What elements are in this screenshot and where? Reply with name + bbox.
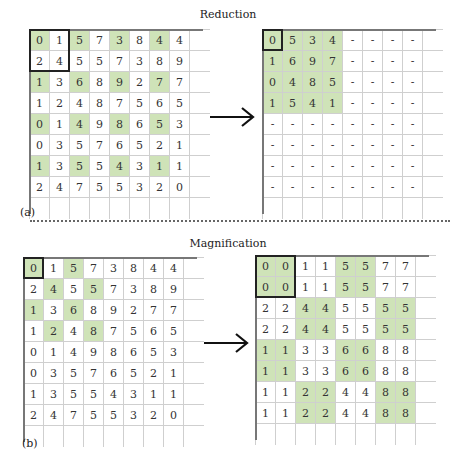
grid-cell: 7 xyxy=(323,51,343,72)
grid-cell: 9 xyxy=(104,300,124,321)
grid-row: 01498653 xyxy=(30,114,210,135)
grid-cell: 1 xyxy=(296,256,316,277)
grid-cell: 8 xyxy=(124,258,144,279)
grid-cell: 8 xyxy=(376,340,396,361)
grid-cell: 0 xyxy=(24,342,44,363)
grid-cell: 9 xyxy=(110,72,130,93)
grid-row: 00115577 xyxy=(256,256,436,277)
grid-cell: 3 xyxy=(44,384,64,405)
grid-cell-empty xyxy=(396,424,416,445)
grid-row: 01573844 xyxy=(30,30,210,51)
grid-row: 0534---- xyxy=(263,30,443,51)
grid-cell: 5 xyxy=(150,114,170,135)
grid-cell-empty xyxy=(423,51,443,72)
grid-cell-empty xyxy=(190,30,210,51)
grid-cell: 7 xyxy=(90,30,110,51)
grid-cell-empty xyxy=(296,424,316,445)
grid-cell: 2 xyxy=(24,279,44,300)
grid-cell: 5 xyxy=(90,177,110,198)
grid-cell: 1 xyxy=(276,382,296,403)
grid-cell: 3 xyxy=(130,51,150,72)
grid-cell-empty xyxy=(190,114,210,135)
grid-cell-empty xyxy=(416,277,436,298)
grid-cell: 8 xyxy=(104,342,124,363)
grid-top-border xyxy=(262,29,436,31)
grid-cell: 4 xyxy=(316,319,336,340)
grid-cell: - xyxy=(363,135,383,156)
grid-cell: - xyxy=(263,135,283,156)
grid-cell: 2 xyxy=(30,177,50,198)
grid-cell: 2 xyxy=(44,321,64,342)
grid-cell: - xyxy=(303,156,323,177)
grid-cell: 0 xyxy=(256,277,276,298)
grid-row: 22445555 xyxy=(256,298,436,319)
grid-top-border xyxy=(23,257,197,259)
grid-cell-empty xyxy=(90,198,110,219)
grid-cell: 4 xyxy=(50,177,70,198)
grid-cell: 1 xyxy=(24,321,44,342)
grid-cell: - xyxy=(363,72,383,93)
grid-top-border xyxy=(255,255,429,257)
panel-a-title: Reduction xyxy=(168,8,288,21)
grid-row: 24557389 xyxy=(24,279,204,300)
grid-cell-empty xyxy=(416,403,436,424)
grid-left-border xyxy=(255,255,257,440)
grid-cell: 8 xyxy=(144,279,164,300)
grid-cell-empty xyxy=(190,51,210,72)
grid-cell: 7 xyxy=(104,279,124,300)
grid-cell: - xyxy=(383,93,403,114)
grid-cell: 1 xyxy=(24,384,44,405)
grid-cell: - xyxy=(283,156,303,177)
grid-cell: 4 xyxy=(336,403,356,424)
grid-cell: 5 xyxy=(376,298,396,319)
grid-cell-empty xyxy=(423,114,443,135)
grid-cell-empty xyxy=(190,198,210,219)
grid-cell: 1 xyxy=(276,340,296,361)
grid-cell: 1 xyxy=(30,93,50,114)
grid-cell: 1 xyxy=(170,135,190,156)
grid-cell: 5 xyxy=(396,319,416,340)
grid-cell-empty xyxy=(423,135,443,156)
grid-cell: 9 xyxy=(84,342,104,363)
grid-cell: 4 xyxy=(323,30,343,51)
grid-cell: 1 xyxy=(316,277,336,298)
grid-cell-empty xyxy=(50,198,70,219)
grid-cell-empty xyxy=(276,424,296,445)
grid-cell: 2 xyxy=(124,300,144,321)
grid-cell: - xyxy=(403,114,423,135)
grid-cell-empty xyxy=(170,198,190,219)
grid-cell: 0 xyxy=(24,363,44,384)
grid-cell: 2 xyxy=(24,405,44,426)
grid-cell: 7 xyxy=(110,93,130,114)
grid-cell-empty xyxy=(184,426,204,447)
grid-cell: 8 xyxy=(90,72,110,93)
magnification-result-grid: 0011557700115577224455552244555511336688… xyxy=(255,255,436,445)
grid-row: 1697---- xyxy=(263,51,443,72)
grid-cell: 9 xyxy=(90,114,110,135)
grid-cell-empty xyxy=(383,198,403,219)
grid-cell-empty xyxy=(416,361,436,382)
grid-cell: - xyxy=(363,30,383,51)
grid-row: 01498653 xyxy=(24,342,204,363)
grid-row: 12487565 xyxy=(24,321,204,342)
grid-cell-empty xyxy=(184,342,204,363)
grid-cell: - xyxy=(343,156,363,177)
grid-cell-empty xyxy=(184,300,204,321)
grid-cell: - xyxy=(303,177,323,198)
grid-cell: 5 xyxy=(90,156,110,177)
grid-cell-empty xyxy=(124,426,144,447)
grid-cell-empty xyxy=(423,93,443,114)
grid-cell: 9 xyxy=(303,51,323,72)
grid-cell: 1 xyxy=(256,361,276,382)
grid-row: 03576521 xyxy=(30,135,210,156)
grid-cell: 5 xyxy=(70,51,90,72)
grid-cell: 5 xyxy=(110,177,130,198)
grid-cell: 2 xyxy=(144,405,164,426)
grid-cell: - xyxy=(403,30,423,51)
grid-left-border xyxy=(29,29,31,214)
grid-cell: 3 xyxy=(296,340,316,361)
grid-cell: 4 xyxy=(303,93,323,114)
grid-cell: 3 xyxy=(110,30,130,51)
grid-cell: 4 xyxy=(70,114,90,135)
grid-cell: - xyxy=(403,156,423,177)
